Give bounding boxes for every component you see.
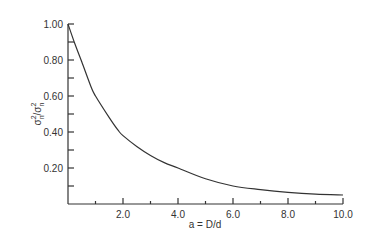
chart: 0.200.400.600.801.002.04.06.08.010.0 a =… bbox=[0, 0, 368, 239]
y-tick-label: 1.00 bbox=[44, 19, 64, 30]
y-tick-label: 0.40 bbox=[44, 127, 64, 138]
x-axis-label: a = D/d bbox=[189, 219, 222, 230]
x-tick-label: 4.0 bbox=[171, 209, 185, 220]
x-tick-label: 6.0 bbox=[226, 209, 240, 220]
x-tick-label: 8.0 bbox=[281, 209, 295, 220]
svg-text:σ2n/σ2n: σ2n/σ2n bbox=[30, 102, 45, 125]
y-tick-label: 0.20 bbox=[44, 163, 64, 174]
tick-labels: 0.200.400.600.801.002.04.06.08.010.0 bbox=[44, 19, 354, 220]
y-tick-label: 0.80 bbox=[44, 55, 64, 66]
x-tick-label: 10.0 bbox=[333, 209, 353, 220]
x-tick-label: 2.0 bbox=[116, 209, 130, 220]
data-curve bbox=[68, 24, 343, 195]
y-tick-label: 0.60 bbox=[44, 91, 64, 102]
y-axis-label: σ2n/σ2n bbox=[30, 102, 45, 125]
axes bbox=[68, 24, 343, 204]
